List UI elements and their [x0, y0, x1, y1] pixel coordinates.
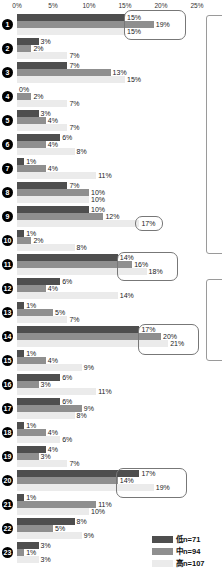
bar-row: 15%	[17, 76, 141, 83]
category-badge: 4	[2, 91, 13, 102]
bar-row: 6%	[17, 374, 72, 381]
bar-segment	[17, 532, 82, 539]
bar-segment	[17, 494, 24, 501]
bar-row: 5%	[17, 525, 65, 532]
x-axis-tick-label: 10%	[82, 2, 95, 9]
bar-value-label: 0%	[19, 86, 29, 93]
bar-value-label: 19%	[156, 484, 170, 491]
bar-value-label: 8%	[77, 148, 87, 155]
bar-value-label: 20%	[163, 333, 177, 340]
bar-segment	[17, 477, 118, 484]
bar-segment	[17, 189, 89, 196]
bar-value-label: 3%	[41, 110, 51, 117]
bar-segment	[17, 302, 24, 309]
bar-row: 20%	[17, 333, 177, 340]
bar-row: 7%	[17, 316, 80, 323]
bar-value-label: 6%	[62, 134, 72, 141]
bar-value-label: 4%	[48, 357, 58, 364]
bar-segment	[17, 261, 132, 268]
bar-value-label: 6%	[62, 436, 72, 443]
legend-swatch	[152, 548, 173, 555]
bar-row: 7%	[17, 100, 80, 107]
bar-segment	[17, 556, 39, 563]
category-badge: 3	[2, 67, 13, 78]
bar-row: 17%	[17, 470, 155, 477]
bar-row: 7%	[17, 182, 80, 189]
x-axis-tick-label: 15%	[118, 2, 131, 9]
bar-row: 19%	[17, 484, 170, 491]
bar-segment	[17, 268, 147, 275]
bar-row: 11%	[17, 388, 112, 395]
bar-row: 2%	[17, 237, 44, 244]
bar-segment	[17, 76, 125, 83]
bar-value-label: 6%	[62, 374, 72, 381]
bar-segment	[17, 196, 89, 203]
bar-row: 1%	[17, 549, 36, 556]
bar-row: 5%	[17, 309, 65, 316]
bar-row: 7%	[17, 62, 80, 69]
bar-value-label: 10%	[91, 189, 105, 196]
bar-segment	[17, 172, 96, 179]
bar-row: 4%	[17, 285, 58, 292]
bar-value-label: 17%	[141, 470, 155, 477]
bar-value-label: 16%	[134, 261, 148, 268]
bar-value-label: 10%	[91, 508, 105, 515]
bar-segment	[17, 542, 39, 549]
bar-row: 6%	[17, 436, 72, 443]
category-badge: 13	[2, 307, 13, 318]
bar-segment	[17, 412, 75, 419]
bar-row: 1%	[17, 494, 36, 501]
bar-segment	[17, 364, 82, 371]
bar-row: 10%	[17, 189, 105, 196]
legend-label: 中n=94	[176, 548, 200, 556]
bar-segment	[17, 148, 75, 155]
category-badge: 10	[2, 235, 13, 246]
bar-value-label: 10%	[91, 196, 105, 203]
bar-value-label: 18%	[149, 268, 163, 275]
bar-value-label: 1%	[26, 350, 36, 357]
bar-value-label: 3%	[41, 38, 51, 45]
bar-row: 2%	[17, 93, 44, 100]
bar-segment	[17, 158, 24, 165]
bar-segment	[17, 165, 46, 172]
bar-segment	[17, 52, 67, 59]
bar-segment	[17, 549, 24, 556]
bar-segment	[17, 38, 39, 45]
legend-swatch	[152, 536, 173, 543]
bar-value-label: 3%	[41, 542, 51, 549]
grouped-bar-chart: 0%5%10%15%20%25% 115%19%15%23%2%7%37%13%…	[0, 0, 222, 576]
bar-value-label: 19%	[156, 21, 170, 28]
bar-segment	[17, 237, 31, 244]
bar-segment	[17, 460, 67, 467]
bar-value-label: 7%	[69, 124, 79, 131]
legend-label: 高n=107	[176, 560, 204, 568]
bar-row: 14%	[17, 477, 134, 484]
bar-value-label: 12%	[105, 213, 119, 220]
bar-segment	[17, 398, 60, 405]
legend-label: 低n=71	[176, 536, 200, 544]
bar-segment	[17, 244, 75, 251]
category-badge: 17	[2, 403, 13, 414]
bar-segment	[17, 436, 60, 443]
bar-row: 8%	[17, 244, 87, 251]
bar-segment	[17, 21, 154, 28]
bar-row: 7%	[17, 460, 80, 467]
bar-row: 1%	[17, 350, 36, 357]
bar-row: 8%	[17, 518, 87, 525]
bar-value-label: 5%	[55, 309, 65, 316]
bar-segment	[17, 292, 118, 299]
bar-row: 10%	[17, 508, 105, 515]
bar-value-label: 14%	[120, 292, 134, 299]
bar-segment	[17, 134, 60, 141]
bar-row: 9%	[17, 364, 94, 371]
category-badge: 2	[2, 43, 13, 54]
bar-row: 6%	[17, 134, 72, 141]
bar-row: 14%	[17, 254, 134, 261]
bar-value-label: 17%	[141, 220, 155, 227]
bar-row: 11%	[17, 501, 112, 508]
bar-segment	[17, 333, 161, 340]
bar-row: 3%	[17, 542, 51, 549]
bar-segment	[17, 62, 67, 69]
bar-segment	[17, 405, 82, 412]
bar-value-label: 2%	[33, 45, 43, 52]
